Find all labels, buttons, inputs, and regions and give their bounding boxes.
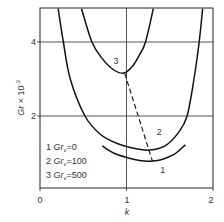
x-tick-label: 1: [124, 195, 129, 205]
curves-layer: 321: [58, 9, 202, 176]
legend-entry-1: 1 Grv=0: [46, 142, 77, 153]
dashed-minimum-locus: [125, 73, 153, 161]
curve-label-1: 1: [160, 165, 165, 175]
curve-label-2: 2: [157, 127, 162, 137]
y-tick-label: 4: [31, 37, 36, 47]
legend-entry-2: 2 Grv=100: [46, 156, 87, 167]
series-2-line: [58, 9, 202, 150]
x-tick-label: 2: [208, 195, 213, 205]
series-1-line: [102, 145, 185, 161]
curve-label-3: 3: [114, 56, 119, 66]
x-tick-label: 0: [37, 195, 42, 205]
x-axis-label: k: [125, 207, 130, 217]
y-tick-label: 2: [31, 111, 36, 121]
y-axis-label: Gr × 10-3: [15, 80, 26, 116]
legend: 1 Grv=02 Grv=1003 Grv=500: [46, 142, 87, 181]
legend-entry-3: 3 Grv=500: [46, 170, 87, 181]
chart: 321 0 1 2 2 4 k Gr × 10-3 1 Grv=02 Grv=1…: [0, 0, 224, 222]
